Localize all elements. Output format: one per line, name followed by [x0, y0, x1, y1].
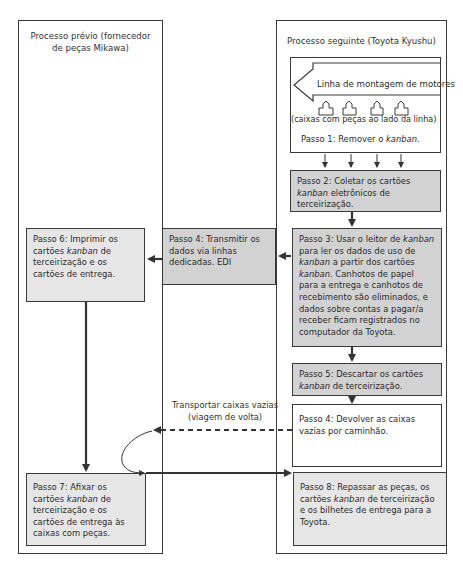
arrows-overlay — [0, 0, 463, 567]
parts-box-icons — [319, 101, 408, 115]
assembly-line-arrow-icon — [294, 63, 441, 101]
return-loop-curve — [122, 431, 152, 473]
step1-to-step2-arrows — [325, 154, 401, 167]
